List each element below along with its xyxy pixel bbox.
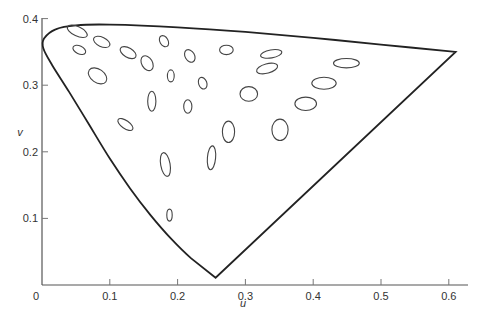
discrimination-ellipse: [159, 152, 172, 177]
discrimination-ellipse: [295, 97, 317, 110]
ellipses-group: [66, 22, 360, 221]
x-tick-label: 0.1: [102, 290, 117, 302]
discrimination-ellipse: [184, 100, 192, 113]
discrimination-ellipse: [197, 76, 209, 90]
discrimination-ellipse: [71, 43, 87, 56]
y-ticks: 0.10.20.30.4: [23, 13, 48, 225]
discrimination-ellipse: [240, 87, 258, 102]
discrimination-ellipse: [272, 119, 288, 140]
spectral-locus: [42, 24, 455, 277]
chromaticity-chart: 0.10.20.30.40.50.6 0.10.20.30.4 0 u v: [0, 0, 488, 325]
origin-label: 0: [33, 290, 39, 302]
x-tick-label: 0.6: [441, 290, 456, 302]
x-tick-label: 0.4: [306, 290, 321, 302]
discrimination-ellipse: [312, 77, 336, 89]
x-axis-label: u: [240, 297, 246, 309]
discrimination-ellipse: [334, 59, 360, 68]
discrimination-ellipse: [118, 44, 138, 61]
discrimination-ellipse: [116, 116, 135, 133]
discrimination-ellipse: [220, 45, 234, 54]
discrimination-ellipse: [85, 65, 109, 88]
discrimination-ellipse: [92, 34, 112, 50]
y-tick-label: 0.4: [23, 13, 38, 25]
discrimination-ellipse: [157, 34, 170, 48]
y-tick-label: 0.1: [23, 212, 38, 224]
x-ticks: 0.10.20.30.40.50.6: [102, 279, 456, 302]
discrimination-ellipse: [222, 121, 234, 142]
y-axis-label: v: [17, 126, 24, 138]
discrimination-ellipse: [206, 145, 216, 170]
x-tick-label: 0.2: [170, 290, 185, 302]
y-tick-label: 0.3: [23, 79, 38, 91]
discrimination-ellipse: [167, 209, 172, 221]
discrimination-ellipse: [260, 48, 283, 60]
discrimination-ellipse: [148, 91, 156, 111]
y-tick-label: 0.2: [23, 146, 38, 158]
x-tick-label: 0.5: [373, 290, 388, 302]
discrimination-ellipse: [138, 54, 155, 73]
discrimination-ellipse: [167, 70, 174, 82]
discrimination-ellipse: [182, 48, 197, 64]
discrimination-ellipse: [255, 61, 278, 76]
